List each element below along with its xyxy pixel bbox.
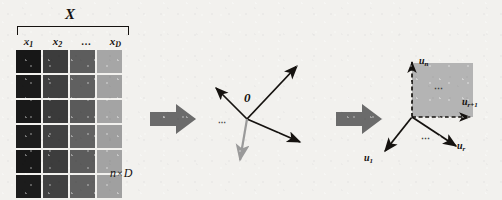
axis-u-r [412, 117, 456, 146]
vector-up-right [247, 66, 297, 119]
label-u-r: ur [457, 140, 465, 153]
vector-down-right [247, 119, 300, 142]
vector-down-gray [240, 119, 247, 160]
basis-ellipsis-below: ⋯ [421, 134, 432, 144]
diagram-vectors [0, 0, 502, 200]
vector-up-left [216, 88, 247, 119]
vector-bundle [216, 66, 300, 160]
transform-arrow-2 [336, 104, 382, 134]
vector-ellipsis: ⋯ [218, 118, 228, 127]
label-u-n: un [419, 55, 428, 68]
axis-u-1 [385, 117, 412, 151]
transform-arrow-1 [150, 104, 196, 134]
figure-canvas: X x1 x2 … xD n×D [0, 0, 502, 200]
subspace-ellipsis: ⋯ [434, 84, 445, 94]
label-u-r-plus-1: ur+1 [462, 96, 478, 109]
origin-label: 0 [244, 90, 251, 106]
label-u-1: u1 [364, 152, 373, 165]
